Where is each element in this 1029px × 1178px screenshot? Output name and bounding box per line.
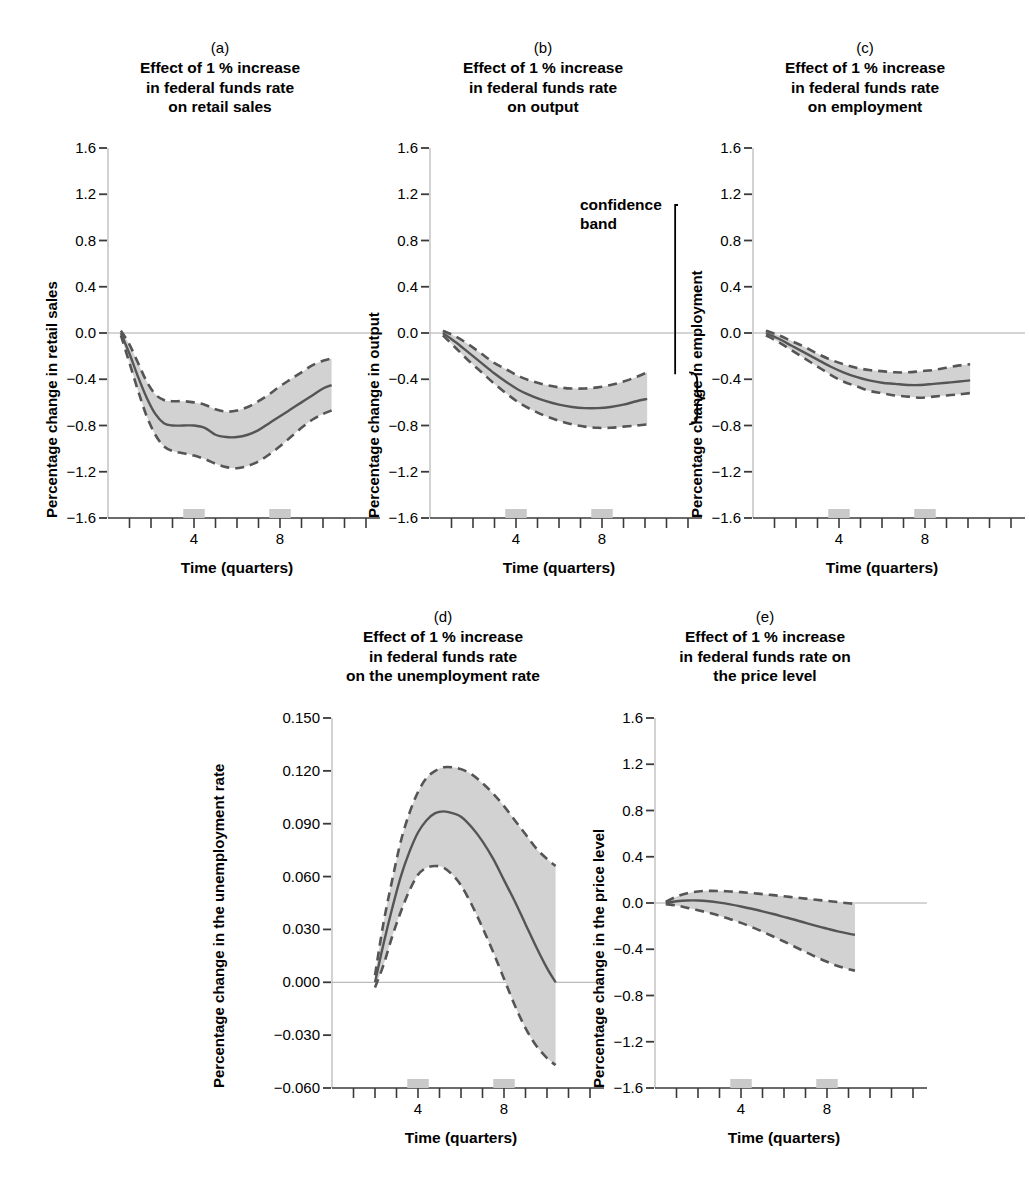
panel-title-line: the price level [600, 666, 930, 686]
y-tick-label: 1.2 [565, 756, 643, 771]
y-axis-label-e: Percentage change in the price level [590, 829, 607, 1088]
x-tick-label: 4 [721, 1101, 761, 1116]
point-estimate-line [666, 900, 855, 934]
x-tick-highlight-block [730, 1079, 752, 1088]
x-axis-label-e: Time (quarters) [635, 1129, 933, 1147]
x-tick-highlight-block [816, 1079, 838, 1088]
panel-letter-e: (e) [600, 607, 930, 626]
confidence-band-upper [666, 891, 855, 904]
x-tick-label: 8 [807, 1101, 847, 1116]
panel-title-line: Effect of 1 % increase [600, 627, 930, 647]
y-tick-label: 1.6 [565, 710, 643, 725]
y-tick-label: 0.8 [565, 803, 643, 818]
confidence-band-fill [666, 891, 855, 971]
confidence-band-lower [666, 904, 855, 970]
panel-title-e: Effect of 1 % increasein federal funds r… [600, 627, 930, 686]
panel-title-line: in federal funds rate on [600, 647, 930, 667]
panel-header-e: (e)Effect of 1 % increasein federal fund… [600, 607, 930, 686]
